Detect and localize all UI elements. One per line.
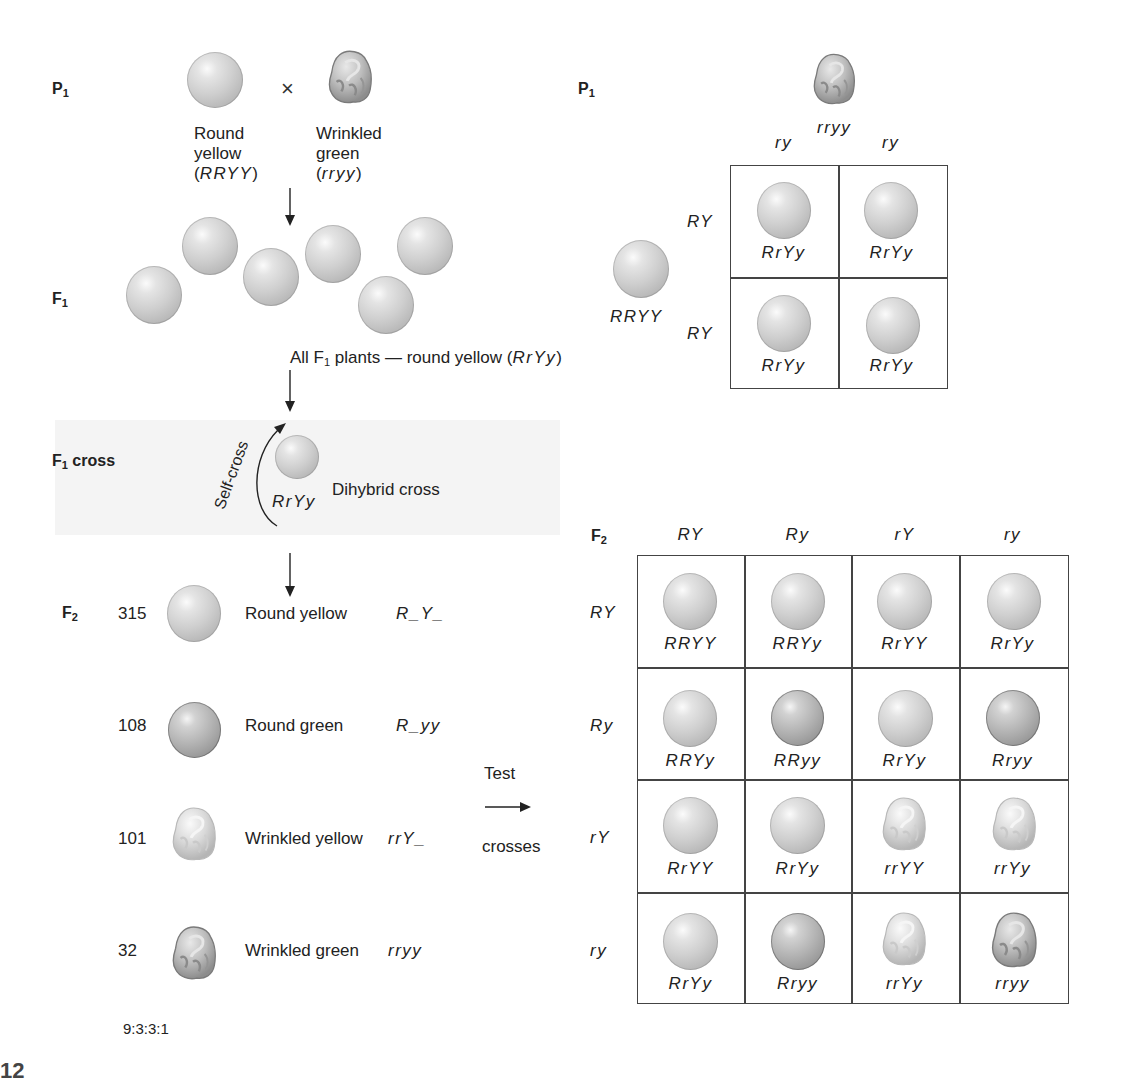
punnett-cell-genotype: Rryy xyxy=(959,751,1066,771)
punnett-cell-genotype: RrYy xyxy=(744,859,851,879)
f2-generation-label: F2 xyxy=(62,604,78,623)
wrinkled-green-pea-icon xyxy=(169,925,219,983)
round-green-pea-icon xyxy=(168,702,221,758)
round-yellow-pea-icon xyxy=(663,797,718,854)
punnett-cell-genotype: Rryy xyxy=(744,974,851,994)
f1-generation-label: F1 xyxy=(52,290,68,309)
round-yellow-pea-icon xyxy=(770,797,825,854)
wrinkled-yellow-pea-icon xyxy=(988,796,1040,854)
punnett-cell-genotype: RrYY xyxy=(851,634,958,654)
left-parent-genotype: RRYY xyxy=(610,307,663,327)
round-yellow-pea-icon xyxy=(663,690,717,747)
wrinkled-green-pea-icon xyxy=(987,911,1041,971)
crosses-label: crosses xyxy=(482,837,541,857)
f1-pea-icon xyxy=(305,225,361,283)
row-gamete: Ry xyxy=(590,716,614,736)
column-gamete: RY xyxy=(637,525,744,545)
column-gamete: ry xyxy=(882,133,899,153)
column-gamete: rY xyxy=(851,525,958,545)
right-arrow-icon xyxy=(484,800,534,814)
punnett-cell-genotype: RrYy xyxy=(637,974,744,994)
punnett-cell-genotype: rrYy xyxy=(851,974,958,994)
p1-square-generation-label: P1 xyxy=(578,80,595,99)
row-gamete: rY xyxy=(590,828,610,848)
round-yellow-pea-icon xyxy=(877,573,932,630)
round-green-pea-icon xyxy=(986,690,1040,746)
column-gamete: Ry xyxy=(744,525,851,545)
punnett-cell-genotype: RRYY xyxy=(637,634,744,654)
round-yellow-pea-icon xyxy=(663,573,717,630)
punnett-cell-genotype: RrYy xyxy=(959,634,1066,654)
f1-pea-icon xyxy=(182,217,238,275)
round-yellow-pea-icon xyxy=(866,297,920,354)
punnett-cell-genotype: RrYy xyxy=(851,751,958,771)
round-yellow-pea-icon xyxy=(757,182,811,239)
f1-cross-genotype: RrYy xyxy=(272,492,316,512)
figure-number-fragment: 12 xyxy=(0,1058,24,1082)
wrinkled-yellow-pea-icon xyxy=(169,806,219,864)
punnett-cell-genotype: rrYy xyxy=(959,859,1066,879)
wrinkled-yellow-pea-icon xyxy=(878,911,930,969)
dihybrid-cross-label: Dihybrid cross xyxy=(332,480,440,500)
wrinkled-yellow-pea-icon xyxy=(878,796,930,854)
round-green-pea-icon xyxy=(771,690,824,746)
row-gamete: RY xyxy=(590,603,616,623)
punnett-cell-genotype: rryy xyxy=(959,974,1066,994)
f1-pea-icon xyxy=(243,248,299,306)
punnett-cell-genotype: RRYy xyxy=(637,751,744,771)
wrinkled-green-pea-icon xyxy=(811,52,857,108)
round-yellow-pea-icon xyxy=(663,913,718,970)
f1-cross-label: F1 cross xyxy=(52,452,115,471)
round-yellow-pea-icon xyxy=(987,573,1041,630)
test-label: Test xyxy=(484,764,515,784)
punnett-cell-genotype: RrYY xyxy=(637,859,744,879)
dihybrid-pea-icon xyxy=(275,435,319,479)
punnett-cell-genotype: rrYY xyxy=(851,859,958,879)
round-yellow-pea-icon xyxy=(878,690,933,747)
round-green-pea-icon xyxy=(771,913,825,970)
f1-pea-icon xyxy=(126,266,182,324)
round-yellow-pea-icon xyxy=(864,182,918,239)
left-parent-pea-icon xyxy=(613,240,669,298)
column-gamete: ry xyxy=(959,525,1066,545)
ratio-label: 9:3:3:1 xyxy=(123,1020,169,1037)
top-parent-genotype: rryy xyxy=(817,118,851,138)
f1-pea-icon xyxy=(397,217,453,275)
punnett-cell-genotype: RRYy xyxy=(744,634,851,654)
row-gamete: RY xyxy=(687,212,713,232)
round-yellow-pea-icon xyxy=(167,585,221,642)
f2-square-generation-label: F2 xyxy=(591,527,607,546)
punnett-cell-genotype: RRyy xyxy=(744,751,851,771)
row-gamete: ry xyxy=(590,941,607,961)
row-gamete: RY xyxy=(687,324,713,344)
round-yellow-pea-icon xyxy=(771,573,825,630)
column-gamete: ry xyxy=(775,133,792,153)
round-yellow-pea-icon xyxy=(757,295,811,352)
f1-pea-icon xyxy=(358,276,414,334)
f1-caption: All F1 plants — round yellow (RrYy) xyxy=(290,348,562,372)
